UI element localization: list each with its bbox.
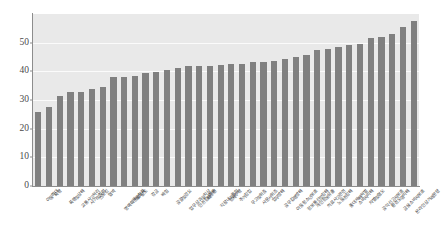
x-tick-label: 감금 [151,189,160,198]
bar [46,107,52,186]
x-tick-label: 폭행 [54,189,63,198]
bar [400,27,406,186]
bar [153,72,159,186]
bar [164,70,170,186]
bar [357,44,363,186]
bar [78,92,84,186]
bar [335,47,341,186]
bar [132,76,138,186]
plot-area: 01020304050 [33,14,419,186]
bar [303,55,309,186]
x-tick-label: 절도 [140,189,149,198]
x-tick-label: 협박 [108,189,117,198]
bar [121,77,127,186]
bar [142,73,148,186]
bar [239,64,245,186]
bar [314,50,320,186]
bar [260,62,266,186]
bar [293,57,299,186]
bar [207,66,213,186]
bar [100,87,106,186]
bar [228,64,234,186]
bar [411,21,417,186]
bar [282,59,288,186]
bar [250,62,256,186]
bar [110,77,116,187]
x-axis-labels: 아동학대폭행폭행및상해교통사고처리사기및횡령스토킹협박명예훼손및모욕재물손괴절도… [33,187,419,232]
x-tick-label: 배임 [162,189,171,198]
bar [89,89,95,186]
bar [57,96,63,186]
bar [378,37,384,186]
bar [67,92,73,186]
bar [325,49,331,186]
bar [346,45,352,186]
bar [368,38,374,186]
bar [175,68,181,186]
bar [389,34,395,187]
bar [196,66,202,186]
bar [185,66,191,186]
bar [271,61,277,186]
bar-series [33,14,419,186]
bar [218,65,224,186]
bar [35,112,41,186]
